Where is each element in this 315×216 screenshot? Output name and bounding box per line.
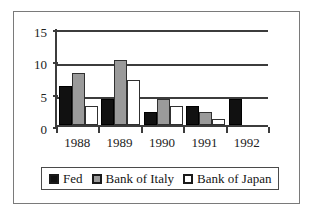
bar: [170, 106, 183, 125]
y-axis-tick-label: 15: [34, 26, 47, 39]
x-axis-label: 1991: [191, 136, 217, 149]
bar: [199, 112, 212, 125]
x-axis-tick: [183, 127, 185, 133]
x-axis-tick: [98, 127, 100, 133]
bar: [59, 86, 72, 125]
x-axis-label: 1992: [234, 136, 260, 149]
legend-swatch-italy: [92, 174, 102, 184]
bar: [127, 80, 140, 125]
bar: [85, 106, 98, 125]
plot-area: [56, 30, 268, 127]
legend-entry: Bank of Japan: [183, 172, 271, 185]
chart-legend: FedBank of ItalyBank of Japan: [41, 167, 279, 190]
x-axis-tick: [268, 127, 270, 133]
y-axis-tick-label: 10: [34, 58, 47, 71]
bar-group: [144, 32, 186, 125]
chart-figure: 051015 19881989199019911992 FedBank of I…: [0, 0, 315, 216]
bar-group: [101, 32, 143, 125]
x-axis-ticks: [56, 127, 268, 135]
x-axis-labels: 19881989199019911992: [56, 136, 268, 154]
bar-group: [186, 32, 228, 125]
bar: [186, 106, 199, 125]
legend-label: Fed: [63, 172, 83, 185]
legend-swatch-fed: [49, 174, 59, 184]
x-axis-label: 1988: [64, 136, 90, 149]
legend-entry: Bank of Italy: [92, 172, 175, 185]
bar: [212, 119, 225, 125]
x-axis-tick: [141, 127, 143, 133]
legend-swatch-japan: [183, 174, 193, 184]
legend-entry: Fed: [49, 172, 83, 185]
x-axis-tick: [56, 127, 58, 133]
x-axis-label: 1990: [149, 136, 175, 149]
bar: [229, 99, 242, 125]
bar: [144, 112, 157, 125]
bar: [114, 60, 127, 125]
x-axis-tick: [226, 127, 228, 133]
bar: [101, 99, 114, 125]
y-axis-tick-label: 0: [41, 123, 48, 136]
legend-label: Bank of Italy: [106, 172, 175, 185]
bar: [72, 73, 85, 125]
x-axis-label: 1989: [107, 136, 133, 149]
bar-group: [229, 32, 271, 125]
legend-label: Bank of Japan: [197, 172, 271, 185]
bar-group: [59, 32, 101, 125]
bar: [157, 99, 170, 125]
y-axis-tick-label: 5: [41, 90, 48, 103]
